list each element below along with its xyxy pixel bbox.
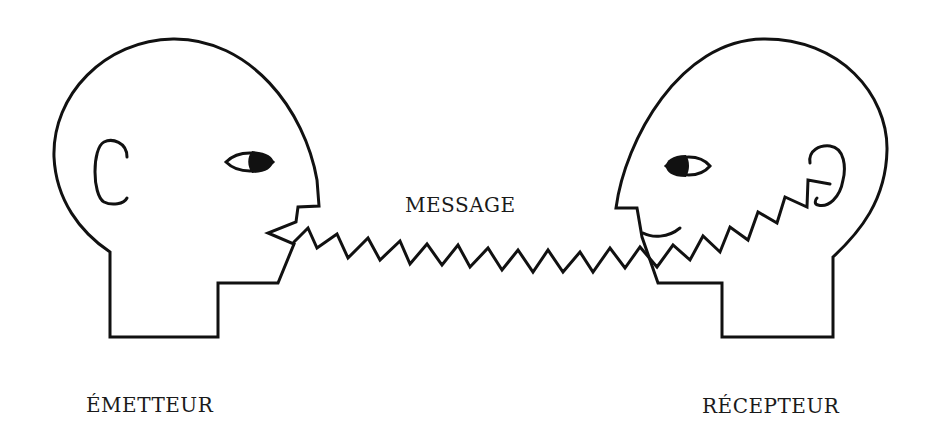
sender-label: ÉMETTEUR — [86, 393, 214, 417]
message-signal-zigzag — [294, 180, 830, 272]
receiver-ear-icon — [810, 146, 845, 206]
sender-head — [54, 39, 319, 337]
communication-diagram: MESSAGE ÉMETTEUR RÉCEPTEUR — [0, 0, 927, 439]
message-label: MESSAGE — [405, 193, 516, 217]
receiver-head — [616, 39, 887, 337]
sender-ear-icon — [95, 141, 127, 205]
receiver-head-outline — [616, 39, 887, 337]
receiver-label: RÉCEPTEUR — [702, 394, 840, 418]
sender-head-outline — [54, 39, 319, 337]
receiver-smile — [643, 228, 680, 236]
sender-eye-icon — [226, 151, 273, 173]
receiver-eye-icon — [666, 155, 710, 177]
